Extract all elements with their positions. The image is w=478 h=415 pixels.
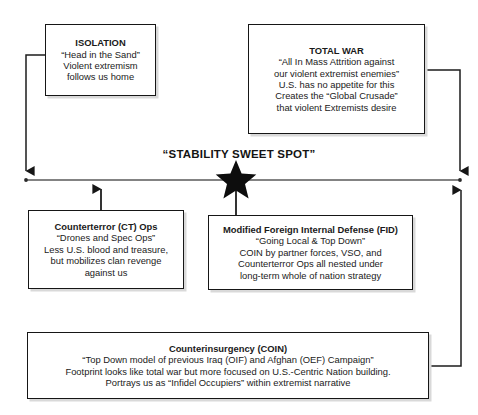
spectrum-center-label: “STABILITY SWEET SPOT” bbox=[0, 148, 478, 160]
box-fid-line-1: COIN by partner forces, VSO, and bbox=[239, 247, 381, 258]
box-total-war-line-2: U.S. has no appetite for this bbox=[279, 79, 395, 90]
box-modified-fid[interactable]: Modified Foreign Internal Defense (FID) … bbox=[208, 215, 413, 290]
spectrum-left-node bbox=[24, 178, 28, 182]
box-fid-line-2: Counterterror Ops all nested under bbox=[238, 258, 383, 269]
box-counterterror-line-0: “Drones and Spec Ops” bbox=[57, 232, 155, 243]
box-total-war-line-3: Creates the “Global Crusade” bbox=[275, 90, 397, 101]
stability-spectrum-diagram: “STABILITY SWEET SPOT” ISOLATION “Head i… bbox=[0, 0, 478, 415]
box-total-war-line-0: “All In Mass Attrition against bbox=[279, 56, 395, 67]
box-total-war-line-1: our violent extremist enemies” bbox=[274, 68, 399, 79]
box-coin-line-0: “Top Down model of previous Iraq (OIF) a… bbox=[82, 354, 373, 365]
box-isolation-line-1: Violent extremism bbox=[63, 60, 137, 71]
box-coin-title: Counterinsurgency (COIN) bbox=[169, 343, 287, 354]
box-counterterror-title: Counterterror (CT) Ops bbox=[54, 221, 157, 232]
box-total-war[interactable]: TOTAL WAR “All In Mass Attrition against… bbox=[248, 24, 425, 134]
box-fid-line-3: long-term whole of nation strategy bbox=[240, 270, 381, 281]
wire-coin-to-spectrum bbox=[429, 190, 461, 366]
box-isolation-title: ISOLATION bbox=[75, 37, 125, 48]
box-isolation[interactable]: ISOLATION “Head in the Sand” Violent ext… bbox=[45, 24, 156, 96]
box-fid-line-0: “Going Local & Top Down” bbox=[256, 235, 365, 246]
box-counterterror-line-1: Less U.S. blood and treasure, bbox=[44, 244, 168, 255]
box-counterterror-line-2: but mobilizes clan revenge bbox=[51, 255, 162, 266]
box-total-war-title: TOTAL WAR bbox=[309, 45, 364, 56]
box-counterterror-line-3: against us bbox=[85, 267, 128, 278]
box-fid-title: Modified Foreign Internal Defense (FID) bbox=[223, 224, 398, 235]
box-counterterror-ops[interactable]: Counterterror (CT) Ops “Drones and Spec … bbox=[28, 210, 184, 289]
box-counterinsurgency[interactable]: Counterinsurgency (COIN) “Top Down model… bbox=[27, 332, 429, 399]
box-coin-line-2: Portrays us as “Infidel Occupiers” withi… bbox=[106, 377, 351, 388]
spectrum-right-node bbox=[458, 178, 462, 182]
box-isolation-line-0: “Head in the Sand” bbox=[61, 49, 140, 60]
box-coin-line-1: Footprint looks like total war but more … bbox=[65, 366, 390, 377]
box-isolation-line-2: follows us home bbox=[67, 71, 134, 82]
box-total-war-line-4: that violent Extremists desire bbox=[277, 102, 397, 113]
